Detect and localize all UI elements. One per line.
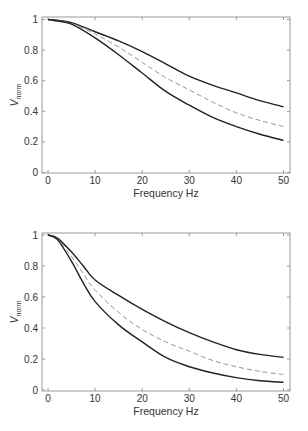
series-lower-curve bbox=[48, 20, 284, 141]
x-tick-label: 0 bbox=[45, 393, 51, 404]
series-upper-curve bbox=[48, 235, 284, 357]
x-tick-label: 40 bbox=[231, 175, 243, 186]
x-tick-label: 50 bbox=[278, 175, 290, 186]
y-axis-label: Vnorm bbox=[8, 300, 22, 323]
x-tick-label: 20 bbox=[137, 393, 149, 404]
x-tick-label: 10 bbox=[90, 393, 102, 404]
plot-frame bbox=[42, 233, 290, 391]
chart-panel-2: 0102030405000.20.40.60.81Frequency HzVno… bbox=[8, 230, 290, 418]
y-tick-label: 1 bbox=[32, 14, 38, 25]
x-tick-label: 50 bbox=[278, 393, 290, 404]
y-tick-label: 0 bbox=[32, 167, 38, 178]
x-tick-label: 30 bbox=[184, 393, 196, 404]
y-tick-label: 0.2 bbox=[24, 136, 38, 147]
y-tick-label: 0.4 bbox=[24, 323, 38, 334]
y-tick-label: 0.4 bbox=[24, 106, 38, 117]
x-tick-label: 10 bbox=[90, 175, 102, 186]
series-upper-curve bbox=[48, 20, 284, 107]
y-tick-label: 0.6 bbox=[24, 292, 38, 303]
x-axis-label: Frequency Hz bbox=[133, 187, 198, 199]
x-tick-label: 30 bbox=[184, 175, 196, 186]
x-tick-label: 20 bbox=[137, 175, 149, 186]
x-tick-label: 40 bbox=[231, 393, 243, 404]
chart-figure: 0102030405000.20.40.60.81Frequency HzVno… bbox=[0, 0, 308, 431]
x-axis-label: Frequency Hz bbox=[133, 405, 198, 417]
series-dashed-curve bbox=[48, 235, 284, 375]
y-tick-label: 0.8 bbox=[24, 45, 38, 56]
y-axis-label: Vnorm bbox=[8, 83, 22, 106]
y-tick-label: 0 bbox=[32, 385, 38, 396]
series-lower-curve bbox=[48, 235, 284, 382]
chart-panel-1: 0102030405000.20.40.60.81Frequency HzVno… bbox=[8, 14, 290, 199]
y-tick-label: 0.2 bbox=[24, 354, 38, 365]
x-tick-label: 0 bbox=[45, 175, 51, 186]
y-tick-label: 1 bbox=[32, 230, 38, 241]
plot-frame bbox=[42, 17, 290, 173]
y-tick-label: 0.6 bbox=[24, 75, 38, 86]
y-tick-label: 0.8 bbox=[24, 261, 38, 272]
series-dashed-curve bbox=[48, 20, 284, 127]
